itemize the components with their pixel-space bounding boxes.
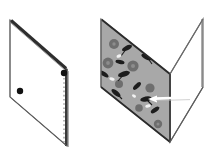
figure-container: Folding diagram: flat patterned sheet an… xyxy=(0,0,208,161)
direction-arrow-shaft xyxy=(154,98,190,99)
folding-diagram-svg xyxy=(0,0,208,161)
black-dot-upper xyxy=(61,70,67,76)
black-dot-lower xyxy=(17,88,23,94)
